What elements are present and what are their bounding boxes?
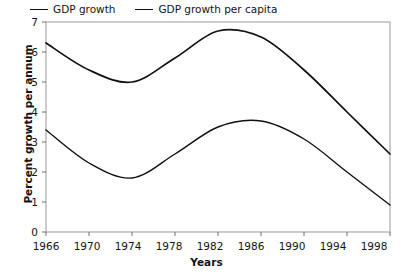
x-tick-marks [46, 232, 390, 236]
y-tick-marks [42, 22, 46, 232]
plot-area [0, 0, 413, 274]
series-line-gdp-growth-per-capita [46, 120, 390, 205]
series-line-gdp-growth [46, 30, 390, 154]
chart-figure: GDP growth GDP growth per capita Percent… [0, 0, 413, 274]
